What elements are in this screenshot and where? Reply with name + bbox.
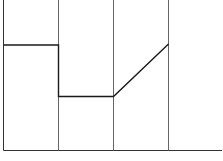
grid (4, 0, 223, 151)
piecewise-diagram (0, 0, 223, 161)
piecewise-line (4, 44, 169, 97)
